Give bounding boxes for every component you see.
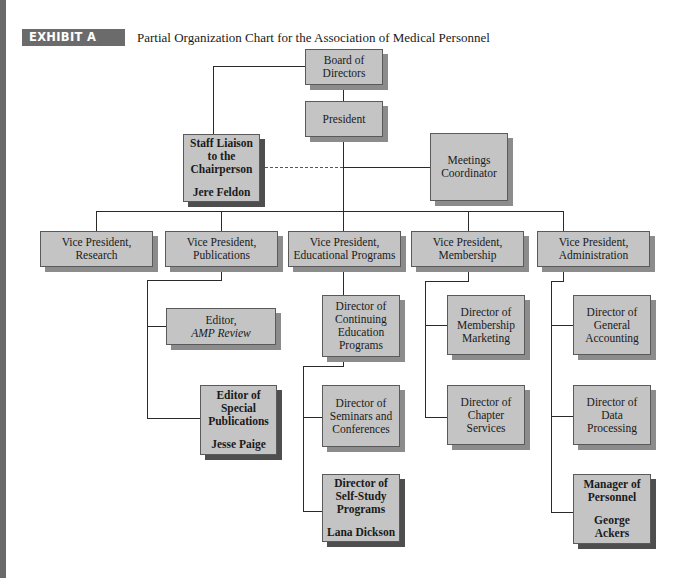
dotted-connector [260,167,343,168]
box-label: Meetings Coordinator [433,154,505,180]
box-title: Director of Self-Study Programs [325,477,397,516]
box-label: Director of Membership Marketing [450,306,522,345]
vp-administration-box: Vice President, Administration [537,231,650,267]
box-label: Editor, [205,314,236,327]
vp-publications-box: Vice President, Publications [165,231,278,267]
connector [213,66,214,134]
box-label: Director of Continuing Education Program… [325,300,397,352]
person-name: Lana Dickson [327,526,395,539]
box-label: Director of General Accounting [576,306,648,345]
connector [303,366,344,367]
connector [303,511,322,512]
general-accounting-box: Director of General Accounting [573,295,651,355]
connector [96,211,563,212]
page-edge-strip [0,0,6,578]
connector [147,326,166,327]
editor-amp-review-box: Editor,AMP Review [166,308,276,345]
data-processing-box: Director of Data Processing [573,385,651,445]
self-study-programs-box: Director of Self-Study ProgramsLana Dick… [322,474,400,542]
connector [551,325,573,326]
chapter-services-box: Director of Chapter Services [447,385,525,445]
person-name: Jere Feldon [193,186,251,199]
box-label: Director of Chapter Services [450,396,522,435]
connector [221,267,222,280]
connector [425,281,469,282]
person-name: George Ackers [576,514,648,540]
president-box: President [305,101,383,137]
box-title: Manager of Personnel [576,478,648,504]
person-name: Jesse Paige [211,438,266,451]
vp-membership-box: Vice President, Membership [411,231,524,267]
connector [425,281,426,418]
connector [343,85,344,101]
connector [343,357,344,366]
meetings-coordinator-box: Meetings Coordinator [430,133,508,201]
publication-name: AMP Review [191,327,251,340]
membership-marketing-box: Director of Membership Marketing [447,295,525,355]
connector [221,211,222,231]
connector [551,281,564,282]
connector [468,211,469,231]
connector [147,418,200,419]
board-of-directors-box: Board of Directors [305,49,383,85]
connector [147,280,148,419]
box-label: Board of Directors [308,54,380,80]
box-title: Editor of Special Publications [203,389,274,428]
box-title: Staff Liaison to the Chairperson [186,137,257,176]
connector [425,417,447,418]
connector [563,267,564,281]
box-label: Vice President, Membership [414,236,521,262]
connector [343,167,430,168]
vp-educational-programs-box: Vice President, Educational Programs [288,231,401,267]
connector [147,280,222,281]
box-label: Vice President, Publications [168,236,275,262]
connector [468,267,469,281]
connector [551,281,552,513]
connector [551,416,573,417]
staff-liaison-box: Staff Liaison to the ChairpersonJere Fel… [183,134,260,202]
connector [303,417,322,418]
box-label: Vice President, Administration [540,236,647,262]
vp-research-box: Vice President, Research [40,231,153,267]
seminars-conferences-box: Director of Seminars and Conferences [322,385,400,447]
connector [96,211,97,231]
box-label: Vice President, Research [43,236,150,262]
box-label: Director of Seminars and Conferences [325,397,397,436]
connector [425,325,447,326]
manager-personnel-box: Manager of PersonnelGeorge Ackers [573,474,651,544]
connector [343,137,344,231]
connector [213,66,305,67]
connector [563,211,564,231]
connector [303,366,304,512]
continuing-education-box: Director of Continuing Education Program… [322,295,400,357]
exhibit-badge: EXHIBIT A [22,29,125,46]
box-label: Vice President, Educational Programs [291,236,398,262]
connector [551,512,573,513]
box-label: President [323,113,366,126]
connector [343,267,344,295]
chart-title: Partial Organization Chart for the Assoc… [137,29,490,46]
editor-special-publications-box: Editor of Special PublicationsJesse Paig… [200,385,277,455]
box-label: Director of Data Processing [576,396,648,435]
